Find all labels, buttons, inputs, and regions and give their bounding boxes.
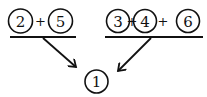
term-circle: 2: [9, 9, 33, 33]
term-circle: 6: [177, 10, 200, 33]
plus-operator: +: [35, 14, 46, 29]
result-value: 1: [92, 73, 102, 91]
plus-operator: +: [127, 14, 138, 29]
result-circle: 1: [85, 70, 108, 93]
term-value: 3: [113, 13, 123, 31]
arrow-right-icon: [118, 38, 151, 71]
term-value: 6: [183, 13, 193, 31]
right-group: 3 + 4 + 6: [105, 10, 203, 38]
number-bond-diagram: 2 + 5 3 + 4 + 6 1: [0, 0, 207, 97]
term-value: 4: [140, 13, 150, 31]
left-group: 2 + 5: [9, 9, 77, 37]
arrow-left-icon: [43, 38, 76, 67]
term-circle: 5: [49, 9, 73, 33]
plus-operator: +: [158, 14, 169, 29]
term-value: 5: [56, 13, 66, 31]
term-value: 2: [16, 13, 26, 31]
